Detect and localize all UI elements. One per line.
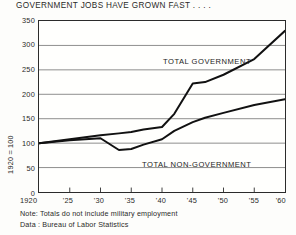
x-tick-label-1930: '30 <box>94 196 104 205</box>
series-label-total-government: TOTAL GOVERNMENT <box>163 57 251 66</box>
y-tick-label-100: 100 <box>22 139 35 148</box>
x-tick-label-1935: '35 <box>125 196 135 205</box>
x-tick-label-1920: 1920 <box>20 196 37 205</box>
x-tick-label-1925: '25 <box>63 196 73 205</box>
chart-title: GOVERNMENT JOBS HAVE GROWN FAST . . . . <box>16 1 211 10</box>
series-line-total-non-government <box>39 99 285 150</box>
x-tick-label-1950: '50 <box>218 196 228 205</box>
chart-page: GOVERNMENT JOBS HAVE GROWN FAST . . . . … <box>0 0 296 235</box>
y-tick-label-250: 250 <box>22 65 35 74</box>
footnotes: Note: Totals do not include military emp… <box>20 209 178 230</box>
y-tick-label-300: 300 <box>22 40 35 49</box>
y-tick-label-50: 50 <box>26 164 35 173</box>
x-tick-label-1960: '60 <box>276 196 286 205</box>
x-tick-label-1945: '45 <box>187 196 197 205</box>
footnote-note: Note: Totals do not include military emp… <box>20 209 178 220</box>
footnote-data: Data : Bureau of Labor Statistics <box>20 220 178 231</box>
y-axis-unit-label: 1920 = 100 <box>6 125 15 185</box>
x-tick-label-1940: '40 <box>156 196 166 205</box>
x-tick-label-1955: '55 <box>249 196 259 205</box>
y-tick-label-200: 200 <box>22 90 35 99</box>
y-tick-label-150: 150 <box>22 114 35 123</box>
x-axis-tick-labels: 1920'25'30'35'40'45'50'55'60 <box>0 196 296 208</box>
y-tick-label-350: 350 <box>22 16 35 25</box>
series-line-total-government <box>39 31 285 143</box>
series-label-total-non-government: TOTAL NON-GOVERNMENT <box>142 160 251 169</box>
